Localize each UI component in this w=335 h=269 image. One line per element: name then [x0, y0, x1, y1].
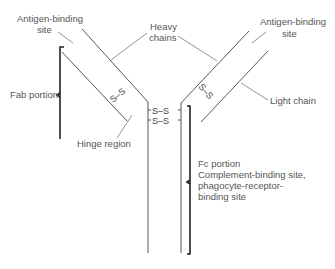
- antigen-binding-right-label: Antigen-binding: [260, 16, 326, 27]
- hinge-region-label: Hinge region: [77, 138, 131, 149]
- antigen-right-leader: [252, 32, 266, 43]
- fc-complement-label: Complement-binding site,: [198, 169, 306, 180]
- heavy-leader-left: [111, 33, 147, 60]
- fab-bracket: [60, 47, 64, 139]
- heavy-leader-right: [178, 36, 217, 61]
- fc-portion-label: Fc portion: [198, 158, 240, 169]
- left-arm-disulfide: S–S: [108, 86, 127, 105]
- hinge-disulfide-1: S–S: [152, 106, 169, 116]
- fc-binding-site-label: binding site: [198, 191, 246, 202]
- left-light-chain: [62, 52, 127, 121]
- antigen-binding-left-label-2: site: [37, 24, 52, 35]
- antibody-diagram: S–S S–S S–S S–S Antigen-binding site Hea…: [0, 0, 335, 269]
- right-light-chain: [201, 51, 268, 122]
- heavy-chains-label-2: chains: [149, 32, 177, 43]
- light-chain-leader: [241, 83, 268, 100]
- heavy-chains-label: Heavy: [150, 21, 177, 32]
- antigen-left-leader: [58, 32, 73, 43]
- light-chain-label: Light chain: [270, 95, 316, 106]
- right-arm-disulfide: S–S: [197, 82, 216, 101]
- fab-portion-label: Fab portion: [10, 89, 58, 100]
- antigen-binding-right-label-2: site: [282, 28, 297, 39]
- antigen-binding-left-label: Antigen-binding: [17, 13, 83, 24]
- hinge-disulfide-2: S–S: [152, 116, 169, 126]
- right-heavy-chain-outer: [181, 31, 249, 103]
- fc-phagocyte-label: phagocyte-receptor-: [198, 180, 283, 191]
